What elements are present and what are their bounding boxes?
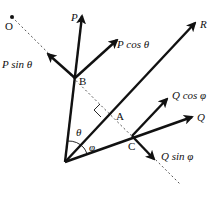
dashed-line-oc — [12, 17, 180, 184]
label-p-cos-theta: P cos θ — [116, 38, 150, 50]
label-b: B — [79, 75, 86, 87]
label-c: C — [128, 140, 135, 152]
force-resolution-diagram: O B A C θ φ P R Q P cos θ P sin θ Q cos … — [0, 0, 221, 200]
angle-arc-phi — [84, 148, 87, 154]
label-q: Q — [197, 111, 205, 123]
vector-p-sin-theta — [48, 54, 75, 78]
label-p-sin-theta: P sin θ — [1, 58, 33, 70]
label-a: A — [116, 110, 124, 122]
label-p: P — [70, 11, 78, 23]
vector-q-cos-phi — [132, 99, 167, 136]
point-o-dot — [10, 15, 14, 19]
label-q-sin-phi: Q sin φ — [161, 150, 193, 162]
vector-p — [65, 16, 82, 162]
label-o: O — [5, 20, 13, 32]
label-phi: φ — [89, 141, 95, 153]
right-angle-marker — [94, 104, 101, 117]
label-theta: θ — [76, 126, 82, 138]
label-r: R — [199, 18, 207, 30]
vector-p-cos-theta — [75, 40, 117, 78]
label-q-cos-phi: Q cos φ — [172, 89, 206, 101]
